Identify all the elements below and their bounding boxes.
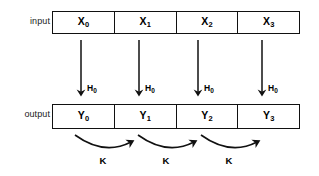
input-cell-1-label: X1 <box>139 16 150 29</box>
output-cell-2: Y2 <box>177 105 239 128</box>
output-cell-3: Y3 <box>238 105 299 128</box>
curved-arrow-2 <box>201 135 257 148</box>
input-cell-0-label: X0 <box>78 16 89 29</box>
output-cell-2-label: Y2 <box>201 110 212 123</box>
input-cell-1: X1 <box>115 12 177 33</box>
curved-arrow-0-label: K <box>83 156 123 166</box>
input-cell-3-label: X3 <box>263 16 274 29</box>
output-cell-3-label: Y3 <box>263 110 274 123</box>
diagram-canvas: input output X0 X1 X2 X3 Y0 Y1 Y2 Y3 <box>0 0 319 176</box>
vertical-arrow-2-label: H0 <box>204 84 214 94</box>
output-row-label: output <box>2 109 50 119</box>
output-cell-1-label: Y1 <box>139 110 150 123</box>
input-cell-3: X3 <box>238 12 299 33</box>
curved-arrow-1-label: K <box>146 156 186 166</box>
output-cell-0-label: Y0 <box>78 110 89 123</box>
vertical-arrow-3-label: H0 <box>268 84 278 94</box>
input-row-label: input <box>8 16 50 26</box>
input-cell-2-label: X2 <box>201 16 212 29</box>
output-cell-row: Y0 Y1 Y2 Y3 <box>52 104 300 129</box>
vertical-arrow-group <box>81 40 262 93</box>
vertical-arrow-0-label: H0 <box>87 84 97 94</box>
input-cell-2: X2 <box>177 12 239 33</box>
input-cell-row: X0 X1 X2 X3 <box>52 11 300 34</box>
curved-arrow-2-label: K <box>209 156 249 166</box>
curved-arrow-group <box>75 135 257 148</box>
vertical-arrow-1-label: H0 <box>145 84 155 94</box>
output-cell-0: Y0 <box>53 105 115 128</box>
curved-arrow-1 <box>138 135 194 148</box>
input-cell-0: X0 <box>53 12 115 33</box>
curved-arrow-0 <box>75 135 131 148</box>
output-cell-1: Y1 <box>115 105 177 128</box>
